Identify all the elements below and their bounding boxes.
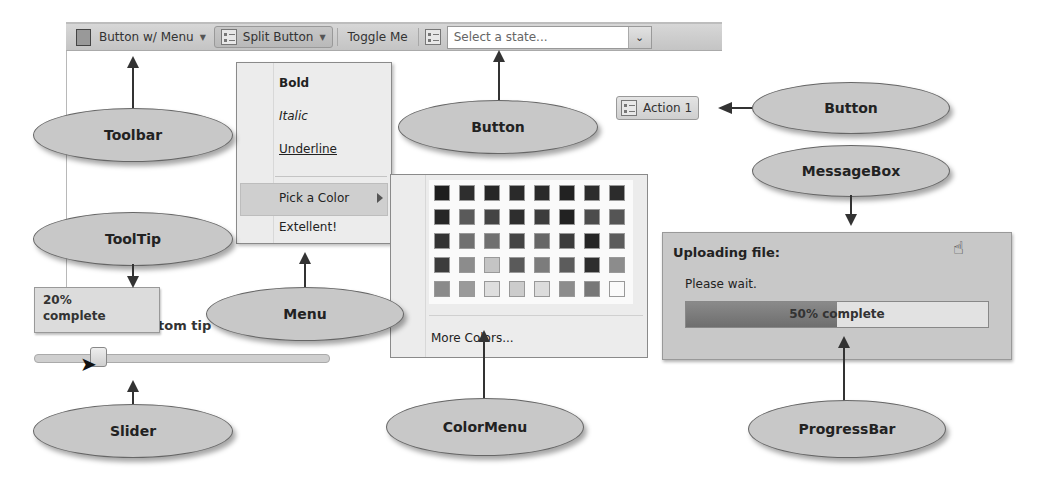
toolbar-separator — [337, 28, 338, 46]
menu-item-italic[interactable]: Italic — [279, 109, 308, 123]
color-swatch[interactable] — [559, 209, 575, 225]
button-with-menu[interactable]: Button w/ Menu ▼ — [70, 26, 212, 48]
callout-menu: Menu — [206, 287, 404, 341]
color-swatch[interactable] — [509, 233, 525, 249]
state-combobox[interactable]: Select a state... ⌄ — [447, 26, 652, 49]
color-swatch[interactable] — [459, 281, 475, 297]
color-swatch[interactable] — [534, 233, 550, 249]
callout-progressbar: ProgressBar — [748, 400, 946, 458]
color-swatch[interactable] — [484, 209, 500, 225]
toggle-button[interactable]: Toggle Me — [342, 26, 414, 48]
color-swatch[interactable] — [509, 209, 525, 225]
color-swatch[interactable] — [534, 185, 550, 201]
document-icon — [76, 29, 91, 46]
color-swatch[interactable] — [559, 281, 575, 297]
action-1-label: Action 1 — [643, 101, 692, 115]
color-swatch[interactable] — [609, 185, 625, 201]
state-combobox-input[interactable]: Select a state... — [448, 30, 628, 44]
color-swatch[interactable] — [509, 257, 525, 273]
list-icon — [425, 29, 441, 45]
color-swatch[interactable] — [559, 257, 575, 273]
menu-item-bold[interactable]: Bold — [279, 76, 309, 90]
menu-gutter — [273, 63, 274, 243]
progress-bar-text: 50% complete — [686, 307, 988, 321]
color-swatch[interactable] — [534, 257, 550, 273]
custom-tip-label: tom tip — [158, 318, 211, 333]
color-swatch[interactable] — [609, 233, 625, 249]
caret-down-icon[interactable]: ▼ — [319, 33, 325, 42]
tooltip: 20% complete — [34, 287, 160, 333]
color-swatch[interactable] — [459, 209, 475, 225]
color-swatch[interactable] — [559, 185, 575, 201]
color-swatch[interactable] — [484, 281, 500, 297]
tooltip-line-1: 20% — [43, 292, 159, 308]
toolbar-separator — [418, 28, 419, 46]
toggle-button-label: Toggle Me — [348, 30, 408, 44]
message-box-title: Uploading file: — [673, 245, 780, 260]
color-swatch[interactable] — [534, 281, 550, 297]
action-1-button[interactable]: Action 1 — [616, 96, 699, 120]
callout-messagebox: MessageBox — [752, 145, 950, 197]
callout-button-toolbar: Button — [398, 100, 598, 154]
panel-border — [66, 48, 67, 308]
color-swatch[interactable] — [609, 257, 625, 273]
color-swatch[interactable] — [559, 233, 575, 249]
menu-item-extellent[interactable]: Extellent! — [279, 220, 337, 234]
color-swatch[interactable] — [434, 233, 450, 249]
color-swatch[interactable] — [459, 185, 475, 201]
slider-track[interactable] — [34, 354, 330, 363]
color-swatch[interactable] — [509, 185, 525, 201]
split-button[interactable]: Split Button ▼ — [214, 26, 333, 48]
more-colors-item[interactable]: More Colors... — [431, 331, 514, 345]
mouse-pointer-icon: ➤ — [80, 352, 97, 376]
color-swatch[interactable] — [484, 257, 500, 273]
color-swatch[interactable] — [434, 185, 450, 201]
color-swatch[interactable] — [584, 257, 600, 273]
dropdown-menu: Bold Italic Underline Pick a Color Extel… — [236, 62, 392, 244]
color-swatch[interactable] — [459, 233, 475, 249]
color-swatch[interactable] — [584, 185, 600, 201]
color-swatch[interactable] — [434, 209, 450, 225]
color-palette — [429, 180, 633, 304]
color-menu: More Colors... — [390, 174, 648, 358]
color-swatch[interactable] — [434, 257, 450, 273]
callout-colormenu: ColorMenu — [386, 398, 584, 456]
callout-slider: Slider — [33, 404, 233, 458]
hand-cursor-icon: ☝ — [953, 237, 964, 258]
menu-gutter — [425, 175, 426, 357]
callout-toolbar: Toolbar — [33, 108, 233, 162]
menu-separator — [429, 315, 643, 316]
color-swatch[interactable] — [484, 185, 500, 201]
list-icon — [221, 29, 237, 45]
color-swatch[interactable] — [434, 281, 450, 297]
color-swatch[interactable] — [609, 281, 625, 297]
toolbar: Button w/ Menu ▼ Split Button ▼ Toggle M… — [66, 22, 722, 51]
menu-item-underline[interactable]: Underline — [279, 142, 337, 156]
color-swatch[interactable] — [584, 209, 600, 225]
menu-separator — [275, 176, 387, 177]
submenu-arrow-icon — [377, 193, 383, 203]
color-swatch[interactable] — [534, 209, 550, 225]
color-swatch[interactable] — [584, 233, 600, 249]
color-swatch[interactable] — [484, 233, 500, 249]
progress-bar: 50% complete — [685, 301, 989, 328]
color-swatch[interactable] — [609, 209, 625, 225]
caret-down-icon: ▼ — [200, 33, 206, 42]
split-button-label: Split Button — [243, 30, 314, 44]
message-box-text: Please wait. — [685, 277, 757, 291]
message-box: Uploading file: ☝ Please wait. 50% compl… — [662, 232, 1012, 360]
color-swatch[interactable] — [459, 257, 475, 273]
color-swatch[interactable] — [584, 281, 600, 297]
callout-tooltip: ToolTip — [33, 212, 233, 266]
tooltip-line-2: complete — [43, 308, 159, 324]
color-swatch[interactable] — [509, 281, 525, 297]
chevron-down-icon[interactable]: ⌄ — [628, 27, 651, 48]
menu-item-pick-a-color[interactable]: Pick a Color — [279, 191, 349, 205]
icon-button[interactable] — [423, 26, 443, 48]
callout-button-standalone: Button — [752, 82, 950, 134]
button-with-menu-label: Button w/ Menu — [99, 30, 194, 44]
list-icon — [621, 100, 637, 116]
